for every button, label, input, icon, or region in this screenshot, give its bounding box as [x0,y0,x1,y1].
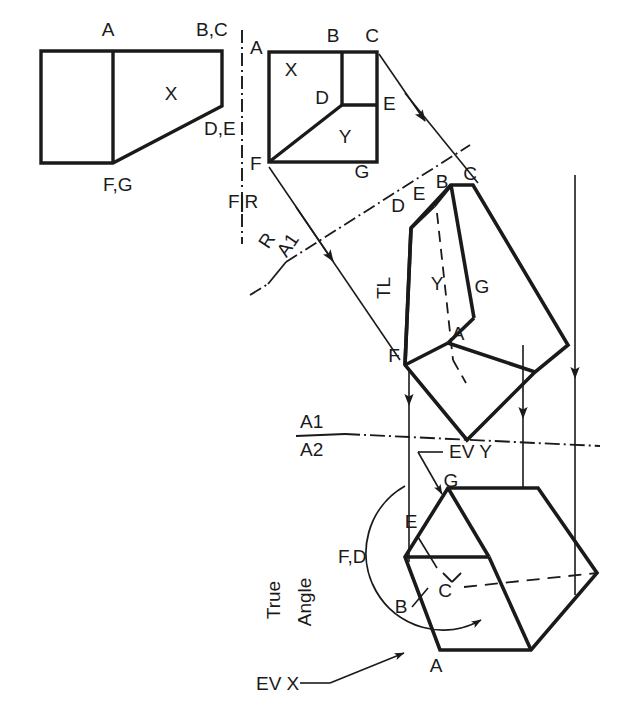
technical-drawing-svg: A B,C D,E F,G X A B C D E F G X Y F|R R … [0,0,619,712]
aux1-label-a: A [452,323,465,344]
top-label-b: B [327,25,340,46]
top-label-e: E [383,93,396,114]
front-label-a: A [102,19,115,40]
fold-line-a2-lower-label: A2 [300,439,323,460]
projection-lines-aux1-to-aux2 [409,175,575,595]
auxiliary-view-1-outline [405,185,568,440]
aux1-label-g: G [475,276,490,297]
front-view-outline [41,51,222,163]
true-angle-line2: Angle [294,578,315,627]
true-angle-line1-group: True [263,581,284,619]
true-angle-line2-group: Angle [294,578,315,627]
front-label-de: D,E [204,118,236,139]
drawing-canvas: A B,C D,E F,G X A B C D E F G X Y F|R R … [0,0,619,712]
top-label-plane-y: Y [339,126,352,147]
ev-x-label: EV X [256,673,300,694]
aux1-label-f: F [388,345,400,366]
top-label-d: D [315,87,329,108]
aux2-label-e: E [405,511,418,532]
aux2-label-a: A [430,655,443,676]
true-angle-line1: True [263,581,284,619]
aux1-label-d: D [391,195,405,216]
aux2-label-fd: F,D [338,546,367,567]
fold-line-a1-upper-label: A1 [300,411,323,432]
front-label-plane-x: X [165,83,178,104]
aux1-label-b: B [436,171,449,192]
fold-line-a1-a2-graphic [296,434,600,446]
aux2-label-g: G [444,470,459,491]
ev-x-leader [300,653,404,683]
ev-y-leader [418,452,443,494]
aux2-label-c: C [438,580,452,601]
front-label-bc: B,C [196,19,228,40]
front-label-fg: F,G [103,174,133,195]
top-label-plane-x: X [285,59,298,80]
fold-line-f-r-label: F|R [228,191,258,212]
top-label-a: A [250,37,263,58]
top-label-c: C [365,25,379,46]
aux1-label-c: C [463,163,477,184]
ev-y-label: EV Y [449,441,492,462]
top-label-g: G [355,161,370,182]
fold-line-a1-label: A1 [272,229,302,260]
auxiliary-view-2-outline [405,488,597,650]
aux2-label-b: B [395,596,408,617]
aux1-label-tl-group: TL [373,277,394,299]
aux1-label-e: E [413,183,426,204]
top-label-f: F [250,153,262,174]
aux1-label-tl: TL [373,277,394,299]
aux1-label-plane-y: Y [431,273,444,294]
